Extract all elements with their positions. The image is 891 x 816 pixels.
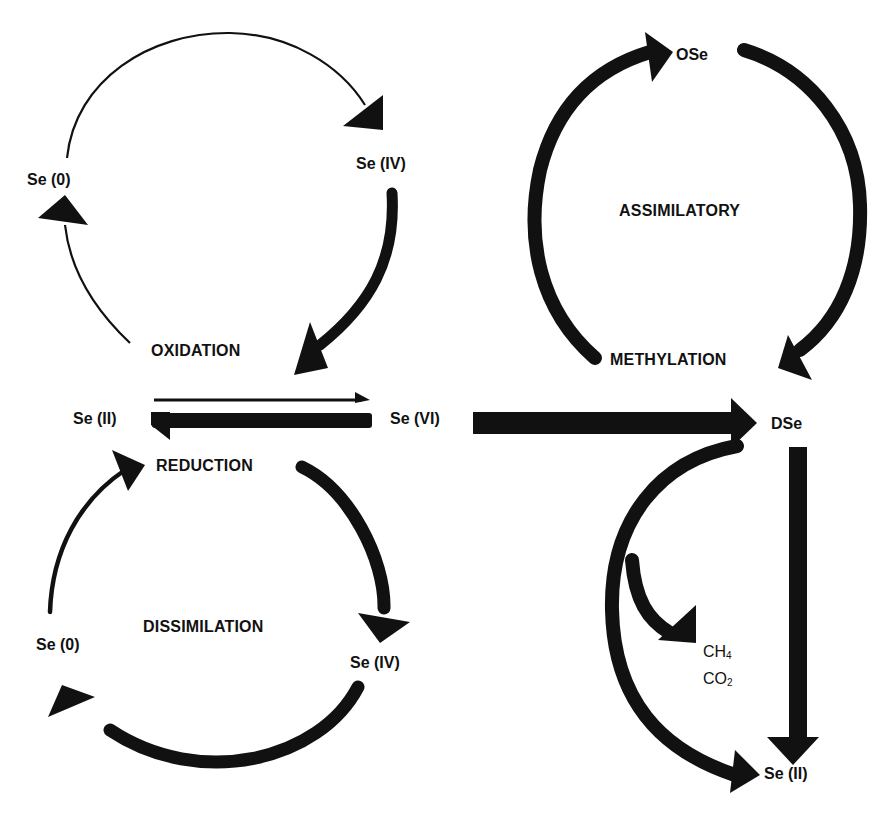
label-ose: OSe <box>676 47 708 63</box>
arrow-ose-to-methylation <box>744 50 860 350</box>
label-ch4: CH4 <box>703 644 732 661</box>
arrow-reduction-to-se4 <box>302 467 384 608</box>
arrowhead-to-se0-top <box>38 195 88 225</box>
ch4-subscript: 4 <box>726 650 732 661</box>
arrowhead-to-reduction <box>112 450 145 491</box>
arrowhead-to-se2-thick <box>151 412 170 440</box>
arrow-se4-to-se0-bottom <box>110 687 358 762</box>
ch4-base: CH <box>703 643 726 660</box>
arrow-oxidation-left-arc <box>65 225 130 343</box>
label-reduction: REDUCTION <box>156 458 253 474</box>
label-se6: Se (VI) <box>390 411 440 427</box>
arrowhead-to-se2-right-straight <box>767 737 819 765</box>
label-oxidation: OXIDATION <box>151 343 241 359</box>
label-dis-se4: Se (IV) <box>350 655 400 671</box>
arrow-oxidation-top-arc <box>67 33 365 158</box>
label-dse: DSe <box>771 416 802 432</box>
label-dis-se0: Se (0) <box>36 637 80 653</box>
arrowhead-to-se0-bottom <box>48 685 95 717</box>
arrowhead-to-se6-thin <box>355 392 370 403</box>
label-assimilatory: ASSIMILATORY <box>619 203 740 219</box>
arrow-se4-to-oxidation <box>320 193 392 345</box>
selenium-cycle-diagram: Se (0) Se (IV) OXIDATION Se (II) Se (VI)… <box>0 0 891 816</box>
arrowhead-to-se4-bottom <box>358 613 410 643</box>
label-methylation: METHYLATION <box>610 352 727 368</box>
arrowhead-to-se2-right-curved <box>730 750 760 793</box>
label-co2: CO2 <box>703 671 733 688</box>
label-dissimilation: DISSIMILATION <box>143 619 264 635</box>
co2-base: CO <box>703 670 727 687</box>
arrow-dse-to-se2-curved <box>612 446 737 775</box>
label-ox-se4: Se (IV) <box>356 156 406 172</box>
arrow-dse-to-ch4-co2 <box>632 560 670 633</box>
label-se2-right: Se (II) <box>764 766 808 782</box>
arrow-se6-to-dse <box>473 412 735 434</box>
co2-subscript: 2 <box>727 677 733 688</box>
arrow-se0-to-reduction <box>50 470 125 612</box>
arrowhead-to-ose <box>645 32 673 82</box>
label-ox-se0: Se (0) <box>27 172 71 188</box>
label-se2-left: Se (II) <box>73 411 117 427</box>
arrow-dse-to-se2-straight <box>789 447 807 747</box>
arrow-se6-to-se2-thick <box>152 413 372 428</box>
diagram-canvas <box>0 0 891 816</box>
